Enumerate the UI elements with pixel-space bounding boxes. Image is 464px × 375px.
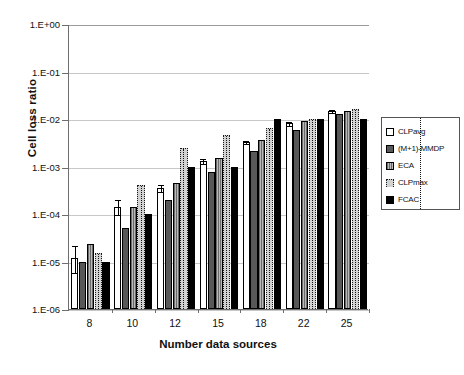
legend-label: (M+1)-MMDP [398, 144, 444, 153]
bar-m-1-mmdp [293, 130, 300, 309]
bar-clpmax [137, 185, 144, 309]
plot-area [68, 25, 368, 310]
legend-item: CLPmax [386, 174, 459, 191]
error-bar-cap-top [286, 122, 292, 123]
bar-clpmax [309, 119, 316, 309]
legend-item: FCAC [386, 191, 459, 208]
bar-clpavg [157, 188, 164, 309]
legend-label: ECA [398, 161, 414, 170]
y-axis-tick-label: 1.E-06 [20, 304, 60, 315]
error-bar-cap-top [200, 159, 206, 160]
x-axis-tick [240, 309, 241, 313]
legend-label: FCAC [398, 195, 419, 204]
bar-fcac [231, 167, 238, 310]
bar-group [114, 25, 152, 309]
error-bar-cap-bottom [329, 113, 335, 114]
bar-fcac [188, 167, 195, 310]
gridline [69, 310, 369, 311]
bar-clpmax [223, 135, 230, 309]
x-axis-tick-label: 8 [68, 317, 111, 329]
x-axis-tick-label: 22 [282, 317, 325, 329]
bar-clpmax [352, 109, 359, 309]
bar-clpavg [286, 123, 293, 309]
error-bar-cap-top [243, 141, 249, 142]
error-bar-cap-bottom [243, 144, 249, 145]
y-axis-tick-label: 1.E-04 [20, 209, 60, 220]
legend-swatch-icon [386, 128, 394, 136]
error-bar-cap-top [72, 246, 78, 247]
bar-group [328, 25, 366, 309]
bar-m-1-mmdp [250, 151, 257, 309]
legend-swatch-icon [386, 145, 394, 153]
legend-item: CLPavg [386, 123, 459, 140]
error-bar-line [118, 200, 119, 215]
bar-fcac [360, 119, 367, 309]
bar-clpavg [328, 111, 335, 309]
error-bar-cap-bottom [158, 192, 164, 193]
y-axis-tick-label: 1.E+00 [20, 19, 60, 30]
bar-m-1-mmdp [165, 200, 172, 309]
x-axis-tick-label: 18 [239, 317, 282, 329]
error-bar-cap-bottom [200, 164, 206, 165]
bar-eca [258, 140, 265, 309]
y-axis-tick [62, 73, 69, 74]
error-bar-cap-bottom [115, 215, 121, 216]
x-axis-tick [326, 309, 327, 313]
x-axis-tick [155, 309, 156, 313]
bar-clpmax [180, 148, 187, 309]
y-axis-tick-label: 1.E-05 [20, 257, 60, 268]
error-bar-cap-top [329, 110, 335, 111]
bar-clpavg [200, 161, 207, 309]
chart-legend: CLPavg(M+1)-MMDPECACLPmaxFCAC [381, 117, 460, 210]
x-axis-tick [112, 309, 113, 313]
y-axis-tick [62, 25, 69, 26]
bar-group [157, 25, 195, 309]
y-axis-tick [62, 120, 69, 121]
bar-group [71, 25, 109, 309]
x-axis-tick-label: 10 [111, 317, 154, 329]
x-axis-tick-label: 25 [325, 317, 368, 329]
bar-clpavg [243, 142, 250, 309]
y-axis-tick-label: 1.E-01 [20, 67, 60, 78]
bar-eca [215, 158, 222, 309]
error-bar-cap-top [115, 200, 121, 201]
bar-group [243, 25, 281, 309]
cell-loss-ratio-chart: Cell loss ratio 1.E+001.E-011.E-021.E-03… [0, 0, 464, 375]
bar-m-1-mmdp [122, 228, 129, 309]
error-bar-cap-top [158, 185, 164, 186]
error-bar-cap-bottom [286, 126, 292, 127]
bar-fcac [102, 262, 109, 310]
x-axis-tick [283, 309, 284, 313]
bar-fcac [145, 214, 152, 309]
y-axis-tick [62, 263, 69, 264]
legend-swatch-icon [386, 179, 394, 187]
bar-eca [87, 244, 94, 309]
bar-fcac [317, 119, 324, 309]
y-axis-tick [62, 310, 69, 311]
bar-clpmax [95, 253, 102, 309]
bar-clpavg [114, 207, 121, 309]
bar-eca [173, 183, 180, 309]
legend-swatch-icon [386, 162, 394, 170]
bar-group [286, 25, 324, 309]
bar-m-1-mmdp [336, 114, 343, 309]
x-axis-tick-label: 15 [197, 317, 240, 329]
bar-group [200, 25, 238, 309]
bar-eca [130, 207, 137, 309]
y-axis-tick-label: 1.E-03 [20, 162, 60, 173]
error-bar-cap-bottom [72, 273, 78, 274]
bar-clpmax [266, 128, 273, 309]
bar-eca [301, 121, 308, 310]
legend-item: ECA [386, 157, 459, 174]
y-axis-tick-label: 1.E-02 [20, 114, 60, 125]
legend-item: (M+1)-MMDP [386, 140, 459, 157]
bar-m-1-mmdp [79, 262, 86, 310]
bar-m-1-mmdp [208, 172, 215, 309]
bar-eca [344, 111, 351, 309]
y-axis-tick [62, 215, 69, 216]
x-axis-title: Number data sources [68, 338, 368, 350]
y-axis-tick [62, 168, 69, 169]
legend-label: CLPavg [398, 127, 425, 136]
legend-swatch-icon [386, 196, 394, 204]
x-axis-tick [198, 309, 199, 313]
